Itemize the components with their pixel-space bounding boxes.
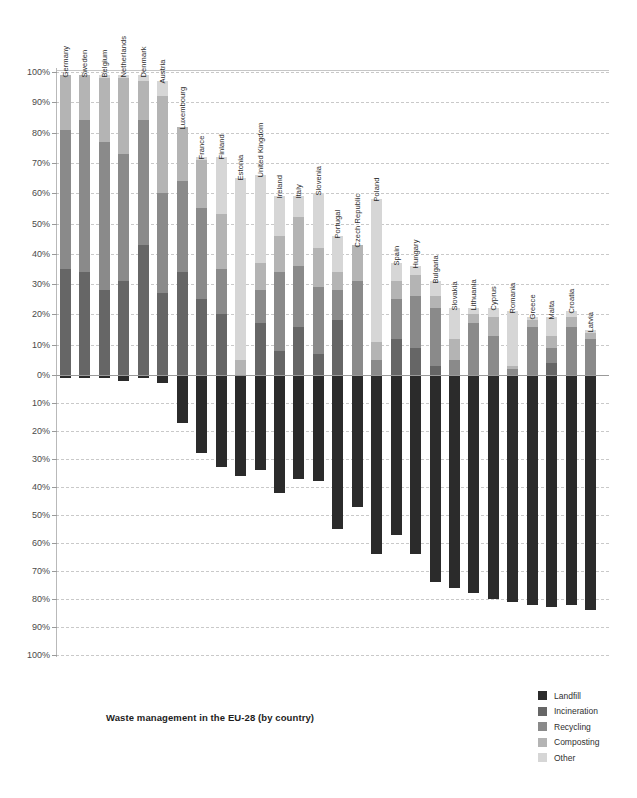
bar-segment[interactable] bbox=[527, 320, 538, 326]
bar-segment[interactable] bbox=[216, 269, 227, 314]
bar-segment[interactable] bbox=[293, 327, 304, 375]
bar-segment[interactable] bbox=[79, 272, 90, 375]
bar-segment[interactable] bbox=[449, 360, 460, 375]
bar-segment[interactable] bbox=[546, 317, 557, 335]
bar-group[interactable] bbox=[138, 70, 149, 655]
bar-segment[interactable] bbox=[352, 281, 363, 375]
bar-segment[interactable] bbox=[60, 269, 71, 375]
bar-segment[interactable] bbox=[157, 375, 168, 383]
bar-segment[interactable] bbox=[371, 375, 382, 554]
bar-group[interactable] bbox=[410, 70, 421, 655]
bar-segment[interactable] bbox=[468, 323, 479, 375]
bar-group[interactable] bbox=[391, 70, 402, 655]
bar-segment[interactable] bbox=[332, 375, 343, 529]
bar-segment[interactable] bbox=[79, 75, 90, 120]
bar-segment[interactable] bbox=[60, 130, 71, 269]
bar-segment[interactable] bbox=[410, 375, 421, 554]
bar-segment[interactable] bbox=[332, 290, 343, 320]
bar-segment[interactable] bbox=[430, 308, 441, 366]
bar-segment[interactable] bbox=[138, 81, 149, 120]
bar-segment[interactable] bbox=[235, 178, 246, 360]
bar-segment[interactable] bbox=[391, 339, 402, 375]
bar-segment[interactable] bbox=[566, 317, 577, 326]
bar-segment[interactable] bbox=[449, 375, 460, 588]
bar-segment[interactable] bbox=[118, 78, 129, 154]
bar-segment[interactable] bbox=[118, 154, 129, 281]
bar-segment[interactable] bbox=[157, 193, 168, 293]
bar-group[interactable] bbox=[118, 70, 129, 655]
bar-segment[interactable] bbox=[546, 348, 557, 363]
bar-segment[interactable] bbox=[177, 127, 188, 182]
bar-segment[interactable] bbox=[410, 296, 421, 348]
bar-segment[interactable] bbox=[430, 366, 441, 375]
bar-segment[interactable] bbox=[196, 375, 207, 453]
bar-segment[interactable] bbox=[332, 272, 343, 290]
bar-segment[interactable] bbox=[332, 236, 343, 272]
bar-segment[interactable] bbox=[410, 348, 421, 375]
bar-segment[interactable] bbox=[391, 299, 402, 338]
bar-segment[interactable] bbox=[566, 327, 577, 375]
bar-segment[interactable] bbox=[274, 196, 285, 235]
bar-segment[interactable] bbox=[546, 375, 557, 607]
bar-segment[interactable] bbox=[293, 375, 304, 479]
legend-item[interactable]: Other bbox=[538, 750, 634, 766]
bar-segment[interactable] bbox=[255, 375, 266, 470]
bar-segment[interactable] bbox=[391, 281, 402, 299]
bar-segment[interactable] bbox=[235, 375, 246, 476]
bar-segment[interactable] bbox=[235, 360, 246, 375]
bar-segment[interactable] bbox=[255, 323, 266, 375]
bar-segment[interactable] bbox=[293, 217, 304, 265]
bar-segment[interactable] bbox=[546, 336, 557, 348]
bar-segment[interactable] bbox=[488, 336, 499, 375]
bar-segment[interactable] bbox=[585, 339, 596, 375]
bar-segment[interactable] bbox=[274, 272, 285, 351]
bar-segment[interactable] bbox=[274, 236, 285, 272]
bar-segment[interactable] bbox=[391, 263, 402, 281]
bar-segment[interactable] bbox=[293, 196, 304, 217]
bar-segment[interactable] bbox=[216, 375, 227, 467]
bar-group[interactable] bbox=[274, 70, 285, 655]
bar-group[interactable] bbox=[60, 70, 71, 655]
bar-segment[interactable] bbox=[255, 290, 266, 323]
bar-segment[interactable] bbox=[546, 363, 557, 375]
bar-segment[interactable] bbox=[585, 375, 596, 610]
bar-segment[interactable] bbox=[255, 175, 266, 263]
bar-segment[interactable] bbox=[585, 333, 596, 339]
bar-group[interactable] bbox=[468, 70, 479, 655]
bar-segment[interactable] bbox=[274, 375, 285, 493]
bar-segment[interactable] bbox=[468, 314, 479, 323]
bar-segment[interactable] bbox=[79, 120, 90, 272]
bar-group[interactable] bbox=[313, 70, 324, 655]
bar-segment[interactable] bbox=[157, 293, 168, 375]
bar-group[interactable] bbox=[79, 70, 90, 655]
bar-segment[interactable] bbox=[196, 208, 207, 299]
bar-segment[interactable] bbox=[255, 263, 266, 290]
bar-segment[interactable] bbox=[371, 360, 382, 375]
bar-segment[interactable] bbox=[293, 266, 304, 327]
bar-group[interactable] bbox=[566, 70, 577, 655]
bar-segment[interactable] bbox=[177, 272, 188, 375]
bar-segment[interactable] bbox=[138, 245, 149, 375]
bar-segment[interactable] bbox=[468, 375, 479, 593]
bar-segment[interactable] bbox=[332, 320, 343, 375]
bar-group[interactable] bbox=[332, 70, 343, 655]
bar-segment[interactable] bbox=[527, 327, 538, 375]
legend-item[interactable]: Composting bbox=[538, 735, 634, 751]
bar-segment[interactable] bbox=[196, 160, 207, 208]
bar-segment[interactable] bbox=[274, 351, 285, 375]
bar-group[interactable] bbox=[430, 70, 441, 655]
bar-segment[interactable] bbox=[371, 199, 382, 341]
legend-item[interactable]: Recycling bbox=[538, 719, 634, 735]
bar-group[interactable] bbox=[507, 70, 518, 655]
bar-group[interactable] bbox=[177, 70, 188, 655]
bar-segment[interactable] bbox=[527, 375, 538, 605]
bar-segment[interactable] bbox=[488, 317, 499, 335]
bar-group[interactable] bbox=[585, 70, 596, 655]
bar-segment[interactable] bbox=[157, 96, 168, 193]
bar-segment[interactable] bbox=[177, 375, 188, 423]
bar-segment[interactable] bbox=[196, 299, 207, 375]
bar-segment[interactable] bbox=[99, 78, 110, 142]
bar-segment[interactable] bbox=[507, 366, 518, 369]
bar-segment[interactable] bbox=[410, 275, 421, 296]
bar-segment[interactable] bbox=[391, 375, 402, 535]
